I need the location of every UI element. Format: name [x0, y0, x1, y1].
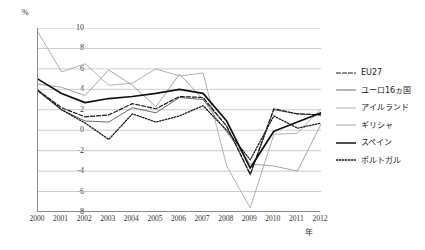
legend-item[interactable]: ギリシャ [336, 117, 425, 135]
series-line [38, 90, 321, 174]
legend-item-label: ユーロ16ヵ国 [361, 86, 411, 95]
series-line [38, 79, 321, 168]
solid-midlight-line-swatch [336, 120, 356, 130]
legend-item-label: ギリシャ [361, 121, 393, 130]
x-axis-unit-label: 年 [305, 228, 313, 237]
legend-item[interactable]: アイルランド [336, 99, 425, 117]
solid-light-line-swatch [336, 103, 356, 113]
legend-item[interactable]: EU27 [336, 64, 425, 82]
series-line [38, 91, 321, 175]
legend-item-label: ポルトガル [361, 156, 401, 165]
legend-item-label: アイルランド [361, 103, 409, 112]
legend-item[interactable]: ポルトガル [336, 152, 425, 170]
solid-gray-line-swatch [336, 85, 356, 95]
plot-svg [38, 28, 321, 212]
chart-legend: EU27ユーロ16ヵ国アイルランドギリシャスペインポルトガル [336, 64, 425, 169]
legend-item-label: スペイン [361, 138, 392, 147]
legend-item[interactable]: スペイン [336, 134, 425, 152]
y-axis-unit-label: % [22, 8, 29, 17]
solid-bold-line-swatch [336, 138, 356, 148]
dotted-line-swatch [336, 155, 356, 165]
dashed-line-swatch [336, 68, 356, 78]
x-axis-tick-label: 2012 [305, 215, 335, 223]
legend-item-label: EU27 [361, 68, 382, 77]
plot-area [37, 28, 320, 212]
chart-container: % 年 1086420-2-4-6-8 20002001200220032004… [0, 0, 425, 250]
legend-item[interactable]: ユーロ16ヵ国 [336, 82, 425, 100]
